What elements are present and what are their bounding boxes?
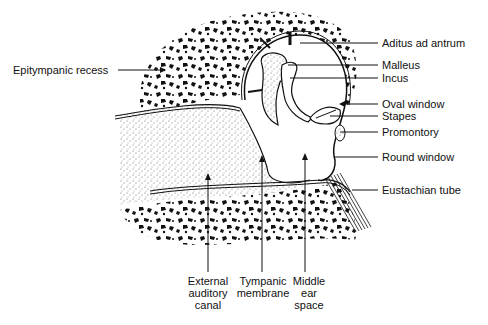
label-incus: Incus	[382, 72, 408, 84]
label-eustachian-tube: Eustachian tube	[382, 184, 461, 196]
label-epitympanic-recess: Epitympanic recess	[13, 64, 108, 76]
label-line: canal	[183, 299, 233, 311]
label-line: Middle	[290, 275, 328, 287]
promontory-shape	[335, 125, 345, 141]
label-line: ear	[290, 287, 328, 299]
label-promontory: Promontory	[382, 126, 439, 138]
label-round-window: Round window	[382, 151, 454, 163]
label-line: Tympanic	[234, 275, 292, 287]
label-line: auditory	[183, 287, 233, 299]
label-tympanic-membrane: Tympanic membrane	[234, 275, 292, 299]
label-external-auditory-canal: External auditory canal	[183, 275, 233, 311]
label-middle-ear-space: Middle ear space	[290, 275, 328, 311]
label-line: membrane	[234, 287, 292, 299]
label-stapes: Stapes	[382, 110, 416, 122]
label-oval-window: Oval window	[382, 98, 444, 110]
label-line: External	[183, 275, 233, 287]
label-line: space	[290, 299, 328, 311]
label-malleus: Malleus	[382, 59, 420, 71]
label-aditus-ad-antrum: Aditus ad antrum	[382, 37, 465, 49]
